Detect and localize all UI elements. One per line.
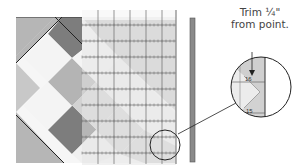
caption-line-2: from point. bbox=[222, 18, 298, 30]
ruler-mark-15: 15 bbox=[246, 108, 253, 114]
leader-line bbox=[178, 103, 236, 134]
quilting-ruler bbox=[82, 10, 176, 165]
trim-caption: Trim ¼" from point. bbox=[222, 6, 298, 30]
ruler-mark-16: 16 bbox=[245, 76, 252, 82]
rotary-cutter-edge bbox=[190, 18, 195, 162]
magnifier: 16 15 bbox=[230, 52, 292, 118]
caption-line-1: Trim ¼" bbox=[222, 6, 298, 18]
